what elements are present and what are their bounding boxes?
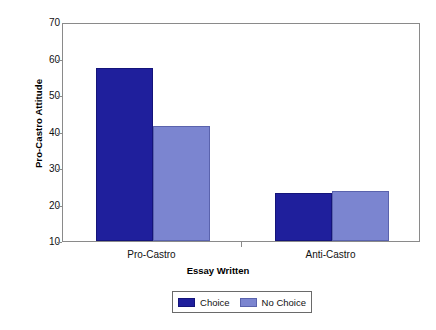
x-tick-label: Anti-Castro [241, 249, 420, 260]
bar-no-choice-anti-castro [332, 191, 389, 241]
plot-area [62, 23, 420, 242]
legend-entry-no-choice: No Choice [240, 297, 306, 308]
y-tick-mark [57, 206, 62, 207]
bar-chart-figure: Pro-Castro Attitude 10203040506070 Pro-C… [0, 0, 436, 330]
y-tick-mark [57, 242, 62, 243]
legend-label: Choice [200, 297, 230, 308]
y-tick-mark [57, 169, 62, 170]
bar-choice-pro-castro [96, 68, 153, 241]
y-axis-tick-labels: 10203040506070 [30, 0, 60, 330]
x-axis-title: Essay Written [0, 265, 436, 276]
bar-choice-anti-castro [275, 193, 332, 241]
x-tick-label: Pro-Castro [62, 249, 241, 260]
chart-legend: ChoiceNo Choice [172, 291, 312, 313]
bar-no-choice-pro-castro [153, 126, 210, 241]
y-tick-mark [57, 96, 62, 97]
y-tick-mark [57, 133, 62, 134]
light-blue-swatch [240, 298, 257, 307]
legend-label: No Choice [262, 297, 306, 308]
y-tick-label: 70 [34, 18, 60, 28]
y-tick-mark [57, 60, 62, 61]
legend-entry-choice: Choice [178, 297, 230, 308]
dark-blue-swatch [178, 298, 195, 307]
x-tick-mark [241, 242, 242, 247]
